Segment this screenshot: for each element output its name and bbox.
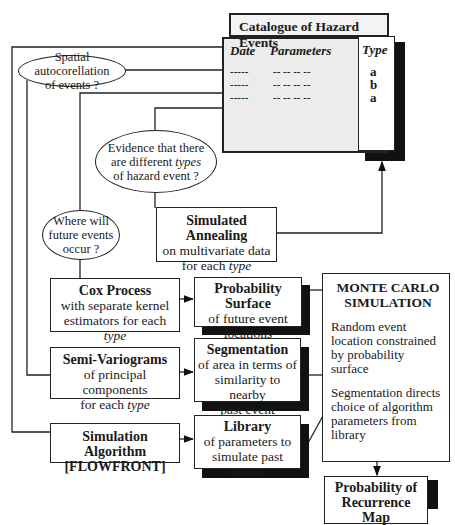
box-library: Library of parameters to simulate past e…	[194, 415, 301, 469]
row-parameters: -- -- -- --	[273, 65, 311, 77]
box-title: Recurrence	[342, 495, 411, 510]
box-text: of principal components	[82, 367, 147, 397]
row-date: -----	[230, 78, 248, 90]
box-text: Random event location constrained by pro…	[331, 320, 445, 376]
box-monte-carlo-simulation: MONTE CARLOSIMULATION Random event locat…	[322, 273, 450, 462]
box-semi-variograms: Semi-Variograms of principal components …	[50, 347, 180, 399]
oval-text: are different	[111, 155, 175, 169]
box-text: Segmentation directs choice of algorithm…	[331, 386, 445, 442]
column-header-parameters: Parameters	[270, 43, 331, 59]
box-title: Probability Surface	[214, 281, 281, 311]
oval-evidence-types: Evidence that thereare different typesof…	[95, 130, 217, 193]
box-title: Map	[362, 510, 390, 525]
box-title: MONTE CARLO	[336, 280, 439, 295]
oval-text: Where will	[53, 214, 109, 228]
row-type: a	[370, 90, 377, 106]
oval-text: occur ?	[63, 242, 99, 256]
oval-text: of events ?	[45, 78, 99, 92]
box-text: of future event	[208, 311, 287, 326]
box-text: on multivariate data	[163, 243, 271, 258]
oval-text: Evidence that there	[108, 141, 204, 155]
box-text-em: type	[104, 328, 127, 343]
box-title: Simulation Algorithm	[82, 429, 147, 459]
box-text-em: type	[127, 397, 150, 412]
box-text: estimators for each	[64, 313, 167, 328]
column-header-type: Type	[362, 42, 388, 58]
oval-text-em: types	[175, 155, 201, 169]
box-probability-surface: Probability Surface of future event loca…	[194, 277, 302, 327]
box-probability-of-recurrence-map: Probability of Recurrence Map	[324, 476, 428, 524]
row-date: -----	[230, 65, 248, 77]
oval-text: of hazard event ?	[113, 169, 199, 183]
box-cox-process: Cox Process with separate kernel estimat…	[50, 278, 180, 332]
box-title: Simulated Annealing	[186, 213, 247, 243]
box-simulation-algorithm: Simulation Algorithm [FLOWFRONT]	[50, 423, 180, 463]
row-parameters: -- -- -- --	[273, 91, 311, 103]
oval-spatial-autocorrelation: Spatial autocorellationof events ?	[18, 55, 126, 87]
oval-text: future events	[49, 228, 114, 242]
oval-where-future-events: Where willfuture eventsoccur ?	[42, 210, 120, 260]
catalogue-title: Catalogue of Hazard Events	[229, 13, 389, 37]
box-text: of area in terms of	[198, 357, 297, 372]
oval-text: Spatial autocorellation	[35, 50, 110, 78]
row-date: -----	[230, 91, 248, 103]
column-header-date: Date	[230, 43, 255, 59]
box-text: with separate kernel	[61, 298, 170, 313]
box-text: [FLOWFRONT]	[64, 459, 165, 474]
row-parameters: -- -- -- --	[273, 78, 311, 90]
box-simulated-annealing: Simulated Annealing on multivariate data…	[156, 207, 277, 262]
box-title: Library	[224, 419, 271, 434]
box-title: Segmentation	[207, 342, 289, 357]
box-title: SIMULATION	[344, 295, 432, 310]
box-text-em: type	[229, 258, 252, 273]
box-text: of parameters to	[204, 434, 292, 449]
box-title: Semi-Variograms	[63, 352, 167, 367]
box-segmentation: Segmentation of area in terms of similar…	[194, 338, 301, 402]
box-title: Probability of	[335, 480, 418, 495]
box-title: Cox Process	[79, 283, 151, 298]
box-text: similarity to nearby	[215, 372, 281, 402]
box-text: for each	[182, 258, 229, 273]
box-text: for each	[80, 397, 127, 412]
